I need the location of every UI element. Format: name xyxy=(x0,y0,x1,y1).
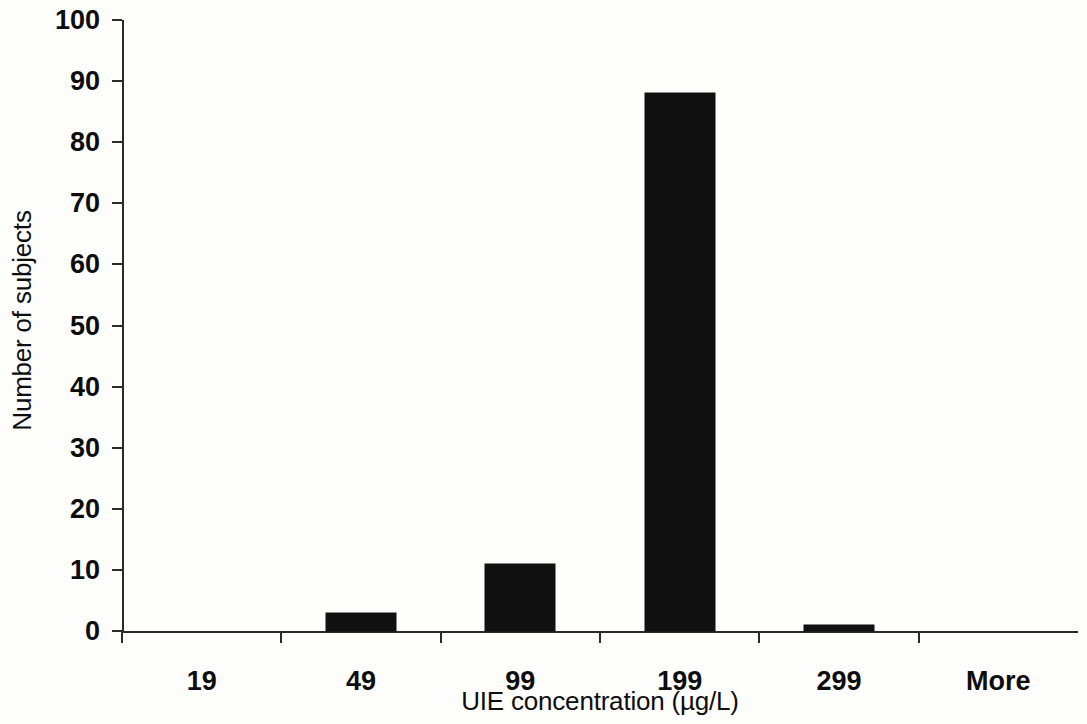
y-axis-tick-label: 20 xyxy=(10,493,100,524)
chart-page: Number of subjects 010203040506070809010… xyxy=(0,0,1087,724)
y-axis-tick xyxy=(112,569,122,571)
y-axis-tick xyxy=(112,508,122,510)
y-axis-tick xyxy=(112,141,122,143)
y-axis-tick xyxy=(112,202,122,204)
x-axis-title: UIE concentration (µg/L) xyxy=(122,686,1078,717)
y-axis-tick-label: 90 xyxy=(10,66,100,97)
x-axis-tick xyxy=(918,632,920,643)
x-axis-tick xyxy=(599,632,601,643)
y-axis-tick-label: 30 xyxy=(10,432,100,463)
y-axis-tick xyxy=(112,263,122,265)
y-axis-tick-label: 50 xyxy=(10,310,100,341)
y-axis-tick xyxy=(112,447,122,449)
y-axis-tick-label: 0 xyxy=(10,616,100,647)
plot-area: 0102030405060708090100 194999199299More xyxy=(122,20,1078,631)
y-axis-tick-label: 80 xyxy=(10,127,100,158)
y-axis-tick xyxy=(112,386,122,388)
x-axis-tick xyxy=(280,632,282,643)
bar xyxy=(326,613,396,631)
y-axis-tick xyxy=(112,80,122,82)
bar xyxy=(645,93,715,631)
y-axis-tick-label: 70 xyxy=(10,188,100,219)
x-axis-tick xyxy=(121,632,123,643)
y-axis-tick-label: 40 xyxy=(10,371,100,402)
y-axis-tick xyxy=(112,325,122,327)
y-axis-tick-label: 10 xyxy=(10,554,100,585)
x-axis-tick xyxy=(440,632,442,643)
bar-layer xyxy=(122,20,1078,631)
y-axis-tick-label: 100 xyxy=(10,5,100,36)
x-axis-tick xyxy=(758,632,760,643)
y-axis-tick xyxy=(112,19,122,21)
y-axis-tick-label: 60 xyxy=(10,249,100,280)
bar xyxy=(804,625,874,631)
bar xyxy=(485,564,555,631)
